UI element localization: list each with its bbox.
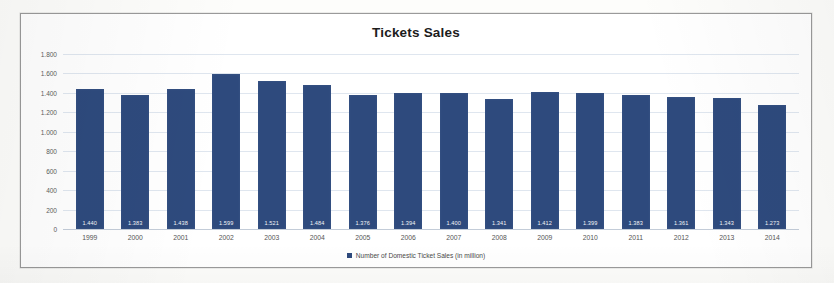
bar[interactable]: 1.599 bbox=[212, 74, 240, 229]
y-tick-label: 1.600 bbox=[41, 70, 57, 77]
bar[interactable]: 1.273 bbox=[758, 105, 786, 229]
x-tick-label: 2000 bbox=[113, 234, 159, 241]
gridline bbox=[63, 229, 799, 230]
bar-value-label: 1.440 bbox=[82, 220, 97, 226]
bar-value-label: 1.341 bbox=[492, 220, 507, 226]
y-tick-label: 600 bbox=[46, 167, 57, 174]
bar-value-label: 1.412 bbox=[537, 220, 552, 226]
y-tick-label: 800 bbox=[46, 148, 57, 155]
y-tick-label: 1.200 bbox=[41, 109, 57, 116]
bar[interactable]: 1.521 bbox=[258, 81, 286, 229]
bar[interactable]: 1.400 bbox=[440, 93, 468, 229]
x-tick-label: 2013 bbox=[704, 234, 750, 241]
bar[interactable]: 1.484 bbox=[303, 85, 331, 229]
bar-slot: 1.383 bbox=[613, 54, 659, 229]
bar[interactable]: 1.412 bbox=[531, 92, 559, 229]
bar[interactable]: 1.341 bbox=[485, 99, 513, 229]
bar-slot: 1.412 bbox=[522, 54, 568, 229]
plot-area: 1.8001.6001.4001.2001.0008006004002000 1… bbox=[63, 54, 799, 229]
bar-value-label: 1.383 bbox=[628, 220, 643, 226]
x-tick-label: 2002 bbox=[204, 234, 250, 241]
legend-swatch-icon bbox=[347, 253, 352, 258]
bar[interactable]: 1.361 bbox=[667, 97, 695, 229]
bar-value-label: 1.376 bbox=[355, 220, 370, 226]
bar-value-label: 1.394 bbox=[401, 220, 416, 226]
x-tick-label: 2011 bbox=[613, 234, 659, 241]
bar-value-label: 1.400 bbox=[446, 220, 461, 226]
bar-series: 1.4401.3831.4381.5991.5211.4841.3761.394… bbox=[63, 54, 799, 229]
bar[interactable]: 1.383 bbox=[622, 95, 650, 229]
bar-slot: 1.383 bbox=[113, 54, 159, 229]
bar-slot: 1.341 bbox=[477, 54, 523, 229]
bar[interactable]: 1.383 bbox=[121, 95, 149, 229]
bar[interactable]: 1.394 bbox=[394, 93, 422, 229]
x-tick-label: 2001 bbox=[158, 234, 204, 241]
bar-slot: 1.440 bbox=[67, 54, 113, 229]
x-tick-label: 2008 bbox=[477, 234, 523, 241]
legend-label: Number of Domestic Ticket Sales (in mill… bbox=[356, 252, 485, 259]
x-tick-label: 2014 bbox=[750, 234, 796, 241]
x-tick-label: 2004 bbox=[295, 234, 341, 241]
x-tick-label: 2003 bbox=[249, 234, 295, 241]
y-tick-label: 400 bbox=[46, 187, 57, 194]
x-axis-labels: 1999200020012002200320042005200620072008… bbox=[63, 234, 799, 241]
bar[interactable]: 1.343 bbox=[713, 98, 741, 229]
bar-value-label: 1.438 bbox=[173, 220, 188, 226]
y-tick-label: 0 bbox=[53, 226, 57, 233]
x-tick-label: 2005 bbox=[340, 234, 386, 241]
y-tick-label: 1.000 bbox=[41, 128, 57, 135]
bar-value-label: 1.599 bbox=[219, 220, 234, 226]
bar-slot: 1.400 bbox=[431, 54, 477, 229]
bar-slot: 1.599 bbox=[204, 54, 250, 229]
bar[interactable]: 1.440 bbox=[76, 89, 104, 229]
bar-value-label: 1.521 bbox=[264, 220, 279, 226]
bar-value-label: 1.484 bbox=[310, 220, 325, 226]
bar-slot: 1.521 bbox=[249, 54, 295, 229]
chart-legend: Number of Domestic Ticket Sales (in mill… bbox=[21, 252, 811, 259]
x-tick-label: 2009 bbox=[522, 234, 568, 241]
x-tick-label: 2006 bbox=[386, 234, 432, 241]
y-tick-label: 1.800 bbox=[41, 51, 57, 58]
bar[interactable]: 1.399 bbox=[576, 93, 604, 229]
bar-slot: 1.438 bbox=[158, 54, 204, 229]
bar-value-label: 1.383 bbox=[128, 220, 143, 226]
bar-slot: 1.399 bbox=[568, 54, 614, 229]
chart-title: Tickets Sales bbox=[21, 25, 811, 40]
bar-slot: 1.484 bbox=[295, 54, 341, 229]
scanned-page: Tickets Sales 1.8001.6001.4001.2001.0008… bbox=[0, 0, 834, 283]
bar-value-label: 1.273 bbox=[765, 220, 780, 226]
x-tick-label: 2012 bbox=[659, 234, 705, 241]
bar-slot: 1.273 bbox=[750, 54, 796, 229]
bar-slot: 1.343 bbox=[704, 54, 750, 229]
bar-value-label: 1.343 bbox=[719, 220, 734, 226]
bar-slot: 1.394 bbox=[386, 54, 432, 229]
y-tick-label: 200 bbox=[46, 206, 57, 213]
x-tick-label: 2007 bbox=[431, 234, 477, 241]
chart-frame: Tickets Sales 1.8001.6001.4001.2001.0008… bbox=[20, 13, 812, 268]
x-tick-label: 1999 bbox=[67, 234, 113, 241]
bar-slot: 1.376 bbox=[340, 54, 386, 229]
bar[interactable]: 1.438 bbox=[167, 89, 195, 229]
bar[interactable]: 1.376 bbox=[349, 95, 377, 229]
bar-value-label: 1.361 bbox=[674, 220, 689, 226]
x-tick-label: 2010 bbox=[568, 234, 614, 241]
bar-value-label: 1.399 bbox=[583, 220, 598, 226]
bar-slot: 1.361 bbox=[659, 54, 705, 229]
y-tick-label: 1.400 bbox=[41, 89, 57, 96]
